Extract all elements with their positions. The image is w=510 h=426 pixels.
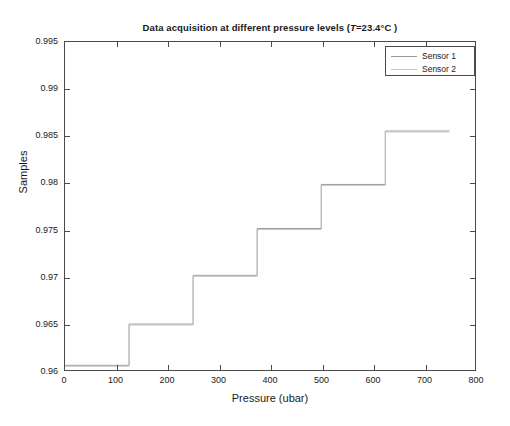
x-tick-label: 200 (159, 375, 174, 385)
legend-box: Sensor 1Sensor 2 (385, 46, 475, 76)
x-tick-mark (220, 365, 221, 370)
x-tick-label: 400 (262, 375, 277, 385)
y-tick-mark (470, 89, 475, 90)
x-tick-mark (323, 365, 324, 370)
x-tick-mark (117, 42, 118, 47)
y-tick-label: 0.965 (58, 319, 81, 329)
x-tick-mark (168, 42, 169, 47)
legend-line-swatch (391, 56, 417, 57)
y-tick-label: 0.98 (58, 177, 76, 187)
legend-line-swatch (391, 69, 417, 70)
legend-item-label: Sensor 2 (422, 64, 456, 74)
plot-area (64, 41, 476, 371)
y-tick-label: 0.985 (58, 130, 81, 140)
y-tick-mark (470, 231, 475, 232)
legend-item-label: Sensor 1 (422, 51, 456, 61)
y-tick-mark (470, 136, 475, 137)
x-tick-mark (117, 365, 118, 370)
legend-item[interactable]: Sensor 2 (386, 62, 474, 76)
y-tick-label: 0.99 (58, 83, 76, 93)
series-layer (65, 42, 475, 370)
series-line (65, 132, 449, 366)
y-axis-label: Samples (17, 132, 29, 212)
x-tick-mark (374, 42, 375, 47)
x-tick-mark (220, 42, 221, 47)
x-tick-mark (374, 365, 375, 370)
y-tick-mark (470, 325, 475, 326)
x-tick-mark (323, 42, 324, 47)
x-tick-mark (271, 365, 272, 370)
x-tick-label: 700 (417, 375, 432, 385)
legend-item[interactable]: Sensor 1 (386, 49, 474, 63)
y-tick-label: 0.975 (58, 225, 81, 235)
x-axis-label: Pressure (ubar) (64, 392, 476, 404)
figure-canvas: Data acquisition at different pressure l… (0, 0, 510, 426)
x-tick-label: 300 (211, 375, 226, 385)
x-tick-label: 600 (365, 375, 380, 385)
y-tick-mark (470, 183, 475, 184)
x-tick-label: 100 (108, 375, 123, 385)
x-tick-mark (271, 42, 272, 47)
x-tick-label: 800 (468, 375, 483, 385)
x-tick-label: 0 (61, 375, 66, 385)
x-tick-mark (426, 365, 427, 370)
x-tick-mark (168, 365, 169, 370)
y-tick-label: 0.97 (58, 272, 76, 282)
x-tick-label: 500 (314, 375, 329, 385)
chart-title-tail: =23.4°C ) (356, 22, 397, 33)
y-tick-label: 0.96 (58, 366, 76, 376)
y-tick-label: 0.995 (58, 36, 81, 46)
y-tick-mark (470, 278, 475, 279)
chart-title: Data acquisition at different pressure l… (64, 22, 476, 33)
chart-title-main: Data acquisition at different pressure l… (143, 22, 344, 33)
